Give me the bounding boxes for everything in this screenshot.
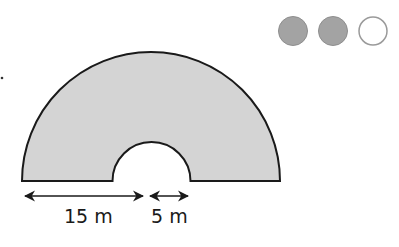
arch-diagram: 15 m 5 m	[0, 0, 399, 247]
difficulty-dot-empty	[359, 17, 387, 45]
stray-dot	[1, 77, 4, 80]
dimension-label-5m: 5 m	[151, 205, 188, 227]
difficulty-dot-filled	[279, 17, 308, 46]
difficulty-indicator	[279, 17, 388, 46]
arch-shape	[22, 52, 280, 181]
difficulty-dot-filled	[319, 17, 348, 46]
dimension-label-15m: 15 m	[64, 205, 113, 227]
